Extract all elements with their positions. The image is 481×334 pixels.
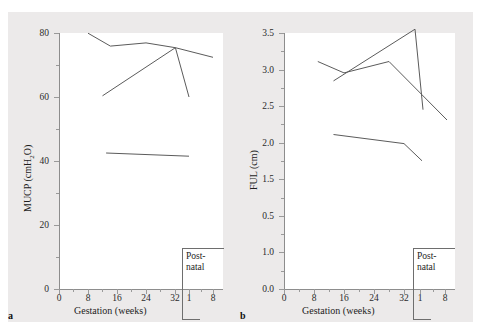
- series-line-a-1: [88, 33, 213, 57]
- panel-b: 3.5 3.0 2.5 2.0 1.5 0.5 1.0 0.0 0 8 16 2…: [240, 12, 472, 322]
- series-group-a: [8, 12, 240, 322]
- series-line-a-2: [103, 48, 176, 96]
- series-line-b-3: [334, 135, 423, 161]
- series-line-a-4: [106, 153, 189, 156]
- figure-root: 80 60 40 20 0 0 8 16 24 32 1 8 MUCP (cmH…: [0, 0, 481, 334]
- series-line-b-1: [318, 62, 447, 121]
- series-line-b-2: [334, 29, 424, 110]
- series-group-b: [240, 12, 472, 322]
- series-line-a-3: [175, 48, 189, 97]
- panel-a: 80 60 40 20 0 0 8 16 24 32 1 8 MUCP (cmH…: [8, 12, 240, 322]
